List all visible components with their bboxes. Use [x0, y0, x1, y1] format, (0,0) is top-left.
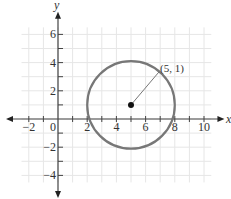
y-axis-label: y	[53, 0, 60, 12]
svg-text:6: 6	[143, 120, 149, 134]
center-point	[128, 102, 134, 108]
point-label: (5, 1)	[160, 62, 184, 75]
svg-text:4: 4	[50, 56, 56, 70]
svg-text:10: 10	[198, 120, 210, 134]
svg-text:8: 8	[172, 120, 178, 134]
svg-text:2: 2	[50, 84, 56, 98]
svg-text:0: 0	[50, 120, 56, 134]
x-axis-label: x	[225, 112, 231, 126]
svg-text:2: 2	[84, 120, 90, 134]
svg-text:4: 4	[113, 120, 119, 134]
grid	[22, 27, 212, 182]
svg-text:−4: −4	[43, 168, 56, 182]
circle-graph: −20246810642−2−4 (5, 1) x y	[0, 0, 231, 199]
svg-text:6: 6	[50, 27, 56, 41]
svg-text:−2: −2	[22, 120, 35, 134]
svg-text:−2: −2	[43, 140, 56, 154]
